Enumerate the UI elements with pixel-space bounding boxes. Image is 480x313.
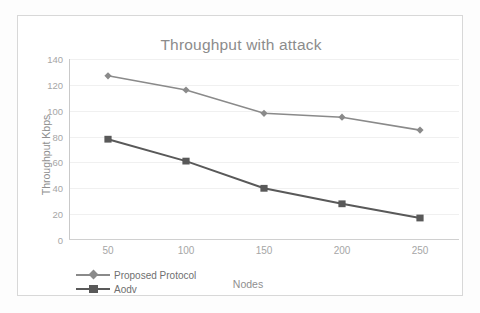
x-tick-label: 150 [239,245,289,256]
x-tick-label: 200 [317,245,367,256]
series-line [108,76,420,130]
y-tick-label: 120 [23,79,63,90]
y-tick-label: 100 [23,105,63,116]
legend-label: Aodv [114,284,137,295]
chart-title: Throughput with attack [18,36,464,54]
x-tick-label: 100 [161,245,211,256]
data-point-square [416,215,423,222]
legend-label: Proposed Protocol [114,270,196,281]
x-tick-label: 250 [395,245,445,256]
chart-frame: Throughput with attack Throughput Kbps N… [17,15,463,296]
data-point-diamond [260,110,267,117]
data-point-square [182,158,189,165]
data-point-diamond [104,72,111,79]
y-tick-label: 40 [23,183,63,194]
data-point-diamond [182,86,189,93]
y-tick-label: 60 [23,157,63,168]
chart-screenshot: Throughput with attack Throughput Kbps N… [0,0,480,313]
legend-square-icon [76,283,110,295]
y-tick-label: 80 [23,131,63,142]
series-line [108,139,420,218]
y-tick-label: 0 [23,235,63,246]
data-point-diamond [416,127,423,134]
data-point-diamond [338,114,345,121]
y-tick-label: 140 [23,54,63,65]
legend-item[interactable]: Aodv [76,282,196,296]
legend-item[interactable]: Proposed Protocol [76,268,196,282]
data-point-square [104,136,111,143]
x-tick-label: 50 [83,245,133,256]
data-point-square [260,185,267,192]
y-tick-label: 20 [23,209,63,220]
legend-diamond-icon [76,269,110,281]
data-point-square [338,200,345,207]
series-plot-layer [69,59,459,240]
chart-legend: Proposed ProtocolAodv [76,268,196,296]
